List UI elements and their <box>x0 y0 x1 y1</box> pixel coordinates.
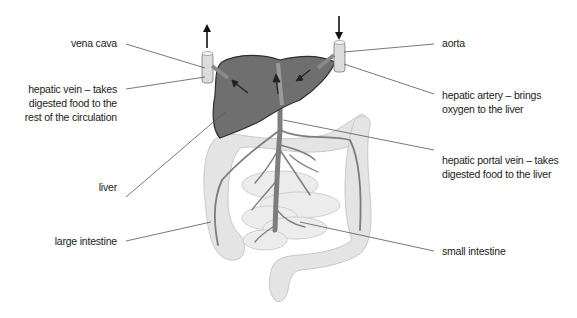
label-line: hepatic portal vein – takes <box>442 153 559 167</box>
label-text: large intestine <box>55 235 117 247</box>
label-text: aorta <box>442 37 465 49</box>
label-line: rest of the circulation <box>25 110 117 124</box>
liver-shape <box>213 55 335 138</box>
label-line: oxygen to the liver <box>442 102 541 116</box>
label-text: liver <box>99 181 117 193</box>
label-hepatic-vein: hepatic vein – takes digested food to th… <box>25 82 117 124</box>
label-text: small intestine <box>442 245 506 257</box>
label-line: digested food to the <box>25 96 117 110</box>
label-large-intestine: large intestine <box>55 234 117 248</box>
vena-cava-tube <box>202 24 228 83</box>
label-line: hepatic vein – takes <box>25 82 117 96</box>
label-hepatic-artery: hepatic artery – brings oxygen to the li… <box>442 88 541 116</box>
label-text: vena cava <box>71 37 117 49</box>
label-line: hepatic artery – brings <box>442 88 541 102</box>
label-small-intestine: small intestine <box>442 244 506 258</box>
label-liver: liver <box>99 180 117 194</box>
small-intestine <box>242 171 340 250</box>
label-aorta: aorta <box>442 36 465 50</box>
label-vena-cava: vena cava <box>71 36 117 50</box>
label-hepatic-portal-vein: hepatic portal vein – takes digested foo… <box>442 153 559 181</box>
label-line: digested food to the liver <box>442 167 559 181</box>
